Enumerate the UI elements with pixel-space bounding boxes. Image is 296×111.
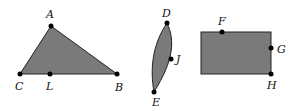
point-c bbox=[18, 72, 23, 77]
point-h bbox=[269, 72, 274, 77]
triangle-shape bbox=[20, 26, 117, 74]
triangle-abc: A C L B bbox=[15, 8, 123, 94]
point-l bbox=[48, 72, 53, 77]
label-l: L bbox=[45, 80, 53, 93]
lens-de: D E J bbox=[151, 7, 181, 109]
label-j: J bbox=[174, 53, 181, 66]
label-c: C bbox=[15, 80, 24, 93]
point-j bbox=[169, 57, 174, 62]
label-f: F bbox=[217, 15, 226, 28]
rectangle-shape bbox=[201, 32, 271, 74]
label-b: B bbox=[114, 81, 123, 94]
point-d bbox=[165, 21, 170, 26]
geometry-figures: A C L B D E J F G H bbox=[0, 0, 296, 111]
rectangle-fgh: F G H bbox=[201, 15, 286, 92]
label-h: H bbox=[266, 79, 277, 92]
label-g: G bbox=[277, 43, 286, 56]
point-f bbox=[220, 30, 225, 35]
label-a: A bbox=[45, 8, 54, 21]
lens-shape bbox=[152, 23, 171, 92]
point-g bbox=[269, 46, 274, 51]
point-e bbox=[152, 90, 157, 95]
point-a bbox=[49, 24, 54, 29]
point-b bbox=[115, 72, 120, 77]
label-d: D bbox=[161, 7, 171, 20]
label-e: E bbox=[151, 96, 160, 109]
